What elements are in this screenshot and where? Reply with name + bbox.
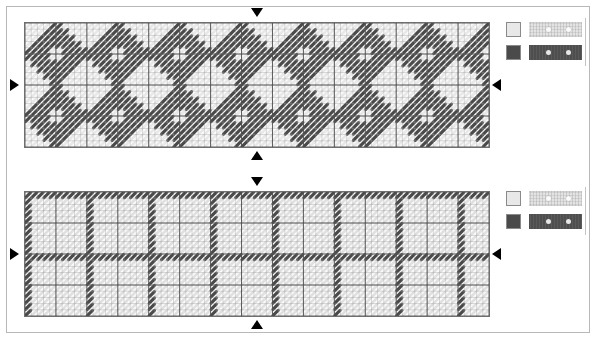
center-marker-bottom-right [492, 248, 501, 260]
center-marker-bottom-top [251, 177, 263, 186]
center-marker-top-bottom [251, 151, 263, 160]
thread-sample-dot [546, 196, 551, 201]
thread-sample-image [529, 45, 582, 60]
chart-page [0, 0, 596, 339]
panel-top [0, 0, 596, 170]
thread-legend-top [506, 20, 592, 66]
legend-row[interactable] [506, 43, 592, 61]
stitch-grid-canvas [25, 192, 489, 316]
top-stitch-chart[interactable] [24, 22, 490, 148]
center-marker-top-top [251, 8, 263, 17]
stitch-grid-canvas [25, 23, 489, 147]
thread-sample-dot [546, 27, 551, 32]
thread-sample-image [529, 214, 582, 229]
thread-sample-dot [546, 219, 551, 224]
thread-sample-dot [566, 50, 571, 55]
panel-bottom [0, 169, 596, 339]
legend-divider-top [585, 18, 586, 66]
dark-thread-swatch[interactable] [506, 214, 521, 229]
thread-sample-dot [566, 196, 571, 201]
thread-sample-dot [546, 50, 551, 55]
center-marker-bottom-left [10, 248, 19, 260]
thread-sample-image [529, 191, 582, 206]
legend-row[interactable] [506, 20, 592, 38]
thread-legend-bottom [506, 189, 592, 235]
bottom-stitch-chart[interactable] [24, 191, 490, 317]
legend-divider-bottom [585, 187, 586, 235]
dark-thread-swatch[interactable] [506, 45, 521, 60]
light-thread-swatch[interactable] [506, 22, 521, 37]
thread-sample-image [529, 22, 582, 37]
legend-row[interactable] [506, 189, 592, 207]
legend-row[interactable] [506, 212, 592, 230]
thread-sample-dot [566, 27, 571, 32]
center-marker-top-right [492, 79, 501, 91]
light-thread-swatch[interactable] [506, 191, 521, 206]
thread-sample-dot [566, 219, 571, 224]
center-marker-bottom-bottom [251, 320, 263, 329]
center-marker-top-left [10, 79, 19, 91]
